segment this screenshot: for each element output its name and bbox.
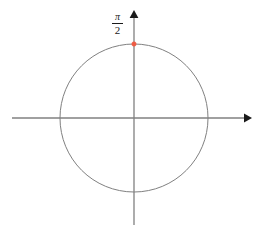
y-axis-arrow-top-icon: [130, 10, 139, 18]
fraction-numerator: π: [113, 12, 122, 23]
marked-point-dot: [132, 42, 136, 46]
x-axis-arrow-right-icon: [244, 114, 252, 123]
unit-circle-canvas: [0, 0, 265, 225]
fraction-denominator: 2: [113, 24, 123, 36]
pi-over-two-label: π 2: [112, 12, 123, 36]
unit-circle-figure: π 2: [0, 0, 265, 225]
